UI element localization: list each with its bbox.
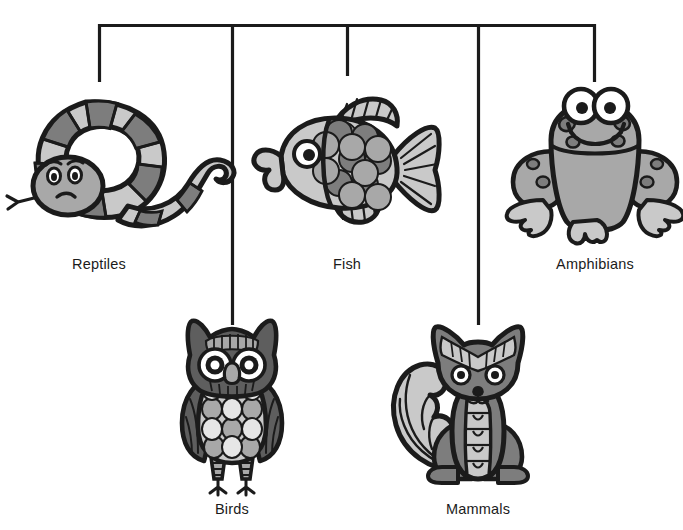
label-amphibians: Amphibians xyxy=(556,256,634,272)
snake-head xyxy=(33,157,103,215)
label-fish: Fish xyxy=(333,256,361,272)
frog-icon xyxy=(507,89,683,243)
label-mammals: Mammals xyxy=(446,501,510,517)
fox-icon xyxy=(393,327,528,483)
owl-icon xyxy=(182,321,282,495)
fish-icon xyxy=(254,98,439,222)
label-reptiles: Reptiles xyxy=(72,256,126,272)
animal-classification-diagram: Reptiles Fish Amphibians Birds Mammals xyxy=(0,0,683,530)
snake-icon xyxy=(7,101,234,226)
label-birds: Birds xyxy=(215,501,249,517)
